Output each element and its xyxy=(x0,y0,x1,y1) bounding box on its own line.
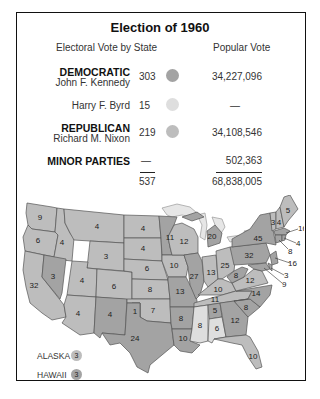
label-al-byrd: 6 xyxy=(215,324,220,333)
republican-swatch xyxy=(166,125,179,138)
electoral-votes: 219 xyxy=(139,127,156,138)
electoral-votes: 303 xyxy=(139,71,156,82)
label-de: 3 xyxy=(284,271,289,280)
label-ri: 4 xyxy=(296,239,301,248)
label-me: 5 xyxy=(286,206,291,215)
label-wa: 9 xyxy=(38,213,43,222)
label-wy: 3 xyxy=(104,252,109,261)
label-ar: 8 xyxy=(179,314,184,323)
state-new-jersey xyxy=(270,251,278,265)
label-al-kennedy: 5 xyxy=(213,306,218,315)
label-tn: 11 xyxy=(211,295,220,304)
label-md: 9 xyxy=(282,280,287,289)
label-ga: 12 xyxy=(231,316,240,325)
electoral-votes: 15 xyxy=(139,100,150,111)
byrd-swatch xyxy=(166,98,179,111)
label-va: 12 xyxy=(246,276,255,285)
label-ok-byrd: 1 xyxy=(133,307,138,316)
label-ks: 8 xyxy=(148,285,153,294)
hawaii-votes: 3 xyxy=(71,369,82,380)
label-nm: 4 xyxy=(108,310,113,319)
label-nv: 3 xyxy=(51,272,56,281)
label-nh: 4 xyxy=(277,218,282,227)
party-label: MINOR PARTIES xyxy=(47,155,130,167)
popular-votes: 34,227,096 xyxy=(212,71,262,82)
label-vt: 3 xyxy=(271,218,276,227)
label-mt: 4 xyxy=(95,222,100,231)
label-ia: 10 xyxy=(170,261,179,270)
label-ca: 32 xyxy=(30,281,39,290)
electoral-total-rule xyxy=(140,172,155,173)
popular-total: 68,838,005 xyxy=(212,176,262,187)
alaska-label: ALASKA xyxy=(37,351,70,361)
label-mo: 13 xyxy=(176,287,185,296)
label-ny: 45 xyxy=(254,234,263,243)
label-ky: 10 xyxy=(214,285,223,294)
popular-votes: 34,108,546 xyxy=(212,127,262,138)
label-mn: 11 xyxy=(166,233,175,242)
label-nc: 14 xyxy=(252,289,261,298)
popular-votes: — xyxy=(230,100,240,111)
label-ut: 4 xyxy=(80,276,85,285)
label-wi: 12 xyxy=(180,237,189,246)
candidate-label: John F. Kennedy xyxy=(56,77,131,88)
popular-vote-header: Popular Vote xyxy=(213,42,270,53)
candidate-label: Richard M. Nixon xyxy=(53,133,130,144)
label-fl: 10 xyxy=(249,352,258,361)
candidate-label: Harry F. Byrd xyxy=(72,100,130,111)
democratic-swatch xyxy=(166,69,179,82)
label-oh: 25 xyxy=(221,261,230,270)
label-nj: 16 xyxy=(288,259,297,268)
label-ne: 6 xyxy=(145,264,150,273)
hawaii-label: HAWAII xyxy=(37,370,67,380)
label-co: 6 xyxy=(112,282,117,291)
label-sd: 4 xyxy=(141,244,146,253)
label-nd: 4 xyxy=(141,224,146,233)
label-ok: 7 xyxy=(151,306,156,315)
label-tx: 24 xyxy=(131,334,140,343)
electoral-votes: — xyxy=(141,155,151,166)
label-in: 13 xyxy=(207,268,216,277)
label-or: 6 xyxy=(36,236,41,245)
label-id: 4 xyxy=(60,238,65,247)
label-sc: 8 xyxy=(244,303,249,312)
label-ms: 8 xyxy=(198,321,203,330)
chart-title: Election of 1960 xyxy=(0,20,320,35)
us-electoral-map: 9 6 32 4 3 4 3 4 4 6 4 4 4 6 8 1 7 24 11… xyxy=(22,195,304,375)
label-mi: 20 xyxy=(208,232,217,241)
label-il: 27 xyxy=(190,272,199,281)
label-pa: 32 xyxy=(245,251,254,260)
alaska-votes: 3 xyxy=(71,350,82,361)
label-ct: 8 xyxy=(288,247,293,256)
popular-votes: 502,363 xyxy=(226,155,262,166)
label-la: 10 xyxy=(179,334,188,343)
electoral-vote-header: Electoral Vote by State xyxy=(56,42,157,53)
popular-total-rule xyxy=(216,172,262,173)
label-wv: 8 xyxy=(234,271,239,280)
label-ma: 16 xyxy=(298,224,304,233)
label-az: 4 xyxy=(76,309,81,318)
electoral-total: 537 xyxy=(139,176,156,187)
